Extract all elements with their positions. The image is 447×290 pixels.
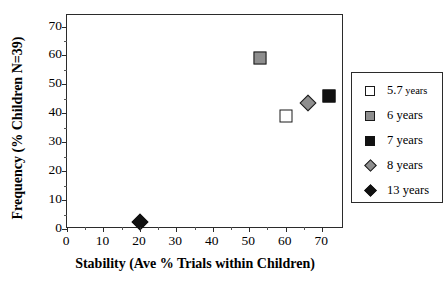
y-axis-tick	[62, 84, 67, 85]
x-axis-tick-labels: 010203040506070	[66, 234, 343, 252]
x-axis-tick-label: 0	[63, 234, 70, 248]
y-axis-tick-label: 20	[49, 163, 63, 177]
y-axis-minor-tick	[64, 186, 67, 187]
x-axis-tick-label: 20	[132, 234, 146, 248]
data-point	[279, 110, 292, 123]
legend: 5.7 years6 years7 years8 years13 years	[351, 72, 443, 203]
y-axis-tick-label: 50	[49, 77, 63, 91]
y-axis-tick-label: 30	[49, 134, 63, 148]
y-axis-tick-label: 0	[55, 221, 62, 235]
legend-item[interactable]: 8 years	[352, 153, 442, 178]
data-point	[323, 89, 336, 102]
x-axis-tick	[249, 227, 250, 232]
y-axis-minor-tick	[64, 41, 67, 42]
legend-label: 7 years	[387, 134, 423, 147]
legend-swatch	[360, 134, 380, 148]
legend-label: 5.7 years	[387, 84, 427, 97]
x-axis-minor-tick	[195, 227, 196, 230]
legend-swatch	[360, 109, 380, 123]
y-axis-tick	[62, 27, 67, 28]
legend-label: 8 years	[387, 159, 423, 172]
x-axis-tick	[213, 227, 214, 232]
x-axis-tick-label: 30	[169, 234, 183, 248]
y-axis-tick-label: 40	[49, 106, 63, 120]
legend-item[interactable]: 13 years	[352, 178, 442, 203]
y-axis-tick-label: 70	[49, 19, 63, 33]
y-axis-tick-label: 10	[49, 192, 63, 206]
x-axis-tick	[103, 227, 104, 232]
y-axis-minor-tick	[64, 70, 67, 71]
legend-label: 13 years	[387, 184, 429, 197]
y-axis-tick	[62, 55, 67, 56]
x-axis-tick	[140, 227, 141, 232]
diamond-marker-icon	[364, 184, 377, 197]
x-axis-tick	[322, 227, 323, 232]
x-axis-tick-label: 40	[205, 234, 219, 248]
x-axis-minor-tick	[158, 227, 159, 230]
plot-frame	[66, 14, 343, 228]
legend-swatch	[360, 184, 380, 198]
x-axis-minor-tick	[267, 227, 268, 230]
legend-label: 6 years	[387, 109, 423, 122]
legend-item[interactable]: 7 years	[352, 128, 442, 153]
chart-figure: Frequency (% Children N=39) 010203040506…	[0, 0, 447, 290]
x-axis-tick-label: 10	[96, 234, 110, 248]
data-point	[302, 97, 314, 109]
legend-item[interactable]: 5.7 years	[352, 78, 442, 103]
square-marker-icon	[365, 136, 375, 146]
y-axis-minor-tick	[64, 128, 67, 129]
legend-swatch	[360, 84, 380, 98]
diamond-marker-icon	[299, 95, 316, 112]
x-axis-minor-tick	[231, 227, 232, 230]
legend-item[interactable]: 6 years	[352, 103, 442, 128]
x-axis-tick	[176, 227, 177, 232]
y-axis-tick	[62, 142, 67, 143]
plot-area	[67, 15, 342, 227]
y-axis-tick	[62, 113, 67, 114]
x-axis-tick	[286, 227, 287, 232]
y-axis-tick-labels: 010203040506070	[0, 14, 62, 228]
data-point	[134, 216, 146, 228]
x-axis-tick-label: 50	[241, 234, 255, 248]
y-axis-minor-tick	[64, 99, 67, 100]
x-axis-tick	[67, 227, 68, 232]
x-axis-minor-tick	[85, 227, 86, 230]
y-axis-tick	[62, 200, 67, 201]
x-axis-minor-tick	[304, 227, 305, 230]
square-marker-icon	[365, 111, 375, 121]
data-point	[254, 52, 267, 65]
y-axis-minor-tick	[64, 215, 67, 216]
legend-swatch	[360, 159, 380, 173]
diamond-marker-icon	[364, 159, 377, 172]
square-marker-icon	[365, 86, 375, 96]
x-axis-tick-label: 60	[278, 234, 292, 248]
x-axis-tick-label: 70	[314, 234, 328, 248]
y-axis-minor-tick	[64, 157, 67, 158]
x-axis-minor-tick	[122, 227, 123, 230]
y-axis-tick	[62, 171, 67, 172]
y-axis-tick-label: 60	[49, 48, 63, 62]
x-axis-title: Stability (Ave % Trials within Children)	[40, 256, 350, 272]
